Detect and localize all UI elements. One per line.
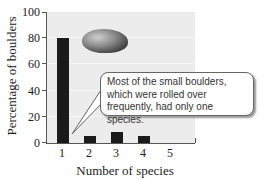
bar-4 xyxy=(138,136,150,143)
y-tick xyxy=(42,63,47,64)
bar-2 xyxy=(84,136,96,143)
y-axis-title: Percentage of boulders xyxy=(4,16,20,136)
y-tick xyxy=(42,90,47,91)
x-tick-label: 4 xyxy=(133,146,153,161)
y-tick-label: 0 xyxy=(14,137,40,149)
bar-3 xyxy=(111,132,123,143)
x-axis-end-tick xyxy=(195,138,196,143)
bar-1 xyxy=(57,38,69,143)
y-tick xyxy=(42,12,47,13)
boulder-image xyxy=(82,29,128,53)
x-tick-label: 5 xyxy=(160,146,180,161)
y-tick xyxy=(42,142,47,143)
x-axis-title: Number of species xyxy=(60,163,190,179)
y-tick xyxy=(42,116,47,117)
gridline xyxy=(47,63,195,64)
callout-annotation: Most of the small boulders, which were r… xyxy=(100,72,254,116)
x-tick-label: 2 xyxy=(79,146,99,161)
x-tick-label: 3 xyxy=(106,146,126,161)
y-tick xyxy=(42,37,47,38)
x-tick-label: 1 xyxy=(52,146,72,161)
